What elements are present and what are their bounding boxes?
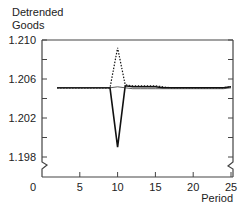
- y-tick-label: 1.198: [8, 151, 36, 163]
- x-tick-label: 10: [111, 181, 123, 193]
- x-axis-ticks: 0510152025: [30, 172, 237, 193]
- x-tick-label: 15: [149, 181, 161, 193]
- y-tick-label: 1.202: [8, 112, 36, 124]
- data-series: [57, 48, 231, 147]
- series-solid-line: [57, 86, 231, 147]
- y-tick-label: 1.210: [8, 34, 36, 46]
- x-tick-label: 5: [77, 181, 83, 193]
- plot-frame: [42, 40, 233, 177]
- x-tick-label: 0: [30, 181, 36, 193]
- x-tick-label: 20: [187, 181, 199, 193]
- line-chart: 1.1981.2021.2061.210 0510152025 Period: [0, 0, 244, 208]
- series-dotted-line: [57, 48, 231, 88]
- y-tick-label: 1.206: [8, 73, 36, 85]
- x-axis-label: Period: [201, 192, 233, 204]
